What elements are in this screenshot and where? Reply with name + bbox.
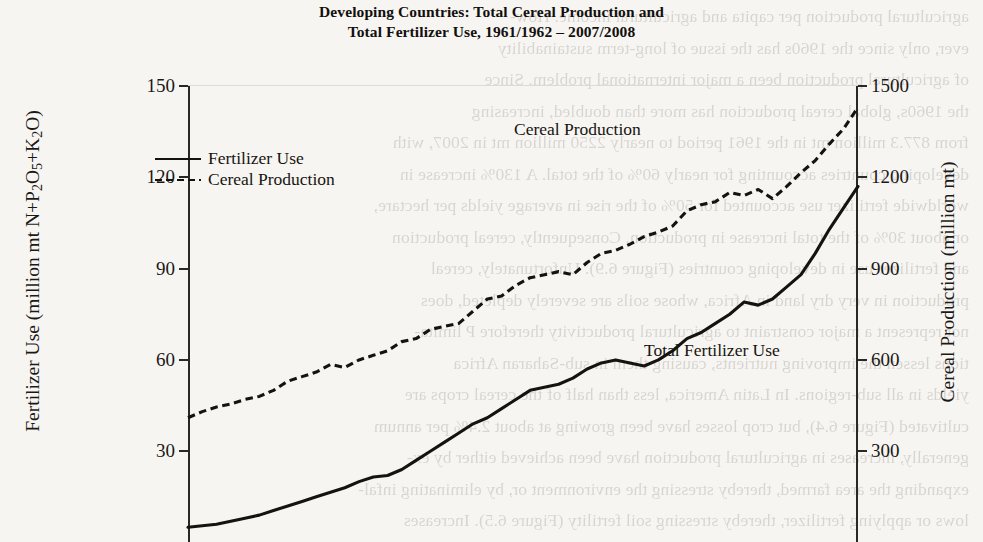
right-tick-label-600: 600 [871,350,900,369]
left-tick-label-90: 90 [156,259,175,278]
left-axis-title-sub-3: 2 [29,131,45,138]
left-axis-title-sub-1: 2 [29,184,45,191]
cereal-production-label: Cereal Production [514,119,641,140]
legend-dashed-line-icon [155,174,201,186]
chart-title-line-1: Developing Countries: Total Cereal Produ… [319,3,664,20]
left-axis-title-tail: +K [22,138,43,163]
left-tick-60 [179,359,188,361]
left-axis-title-mid: O [22,170,43,184]
left-axis-title-sub-2: 5 [29,163,45,170]
left-tick-30 [179,450,188,452]
left-tick-150 [179,85,188,87]
legend-label-cereal-production: Cereal Production [208,169,335,190]
legend-item-cereal-production: Cereal Production [155,169,335,190]
left-axis-title: Fertilizer Use (million mt N+P2O5+K2O) [22,110,47,431]
chart-title: Developing Countries: Total Cereal Produ… [0,2,983,42]
chart-title-line-2: Total Fertilizer Use, 1961/1962 – 2007/2… [0,22,983,42]
left-tick-90 [179,268,188,270]
right-tick-label-1200: 1200 [871,167,909,186]
chart-legend: Fertilizer Use Cereal Production [155,148,335,190]
right-tick-label-1500: 1500 [871,76,909,95]
right-tick-300 [858,450,867,452]
chart-figure: Developing Countries: Total Cereal Produ… [0,0,983,542]
right-tick-label-300: 300 [871,441,900,460]
right-tick-1200 [858,176,867,178]
left-axis-title-end: O) [22,110,43,131]
right-tick-900 [858,268,867,270]
legend-label-fertilizer-use: Fertilizer Use [208,148,304,169]
plot-area: 150120906030 15001200900600300 Fertilize… [188,86,858,542]
right-tick-label-900: 900 [871,259,900,278]
right-tick-1500 [858,85,867,87]
left-tick-label-60: 60 [156,350,175,369]
right-axis-title: Cereal Production (million mt) [937,161,959,402]
total-fertilizer-use-label: Total Fertilizer Use [644,340,780,361]
left-axis-title-main: Fertilizer Use (million mt N+P [22,191,43,432]
left-tick-label-150: 150 [147,76,176,95]
left-tick-label-30: 30 [156,441,175,460]
legend-solid-line-icon [155,153,201,165]
legend-item-fertilizer-use: Fertilizer Use [155,148,335,169]
right-tick-600 [858,359,867,361]
